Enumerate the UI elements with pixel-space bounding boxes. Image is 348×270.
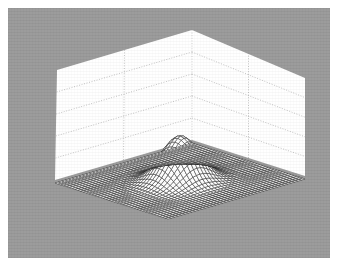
page-canvas — [0, 0, 348, 270]
surface-plot — [0, 0, 348, 270]
